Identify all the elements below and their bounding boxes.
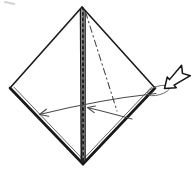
fold-arrow-short-arc	[88, 108, 133, 120]
paper-edge-lower-right-outer	[83, 88, 155, 164]
scan-artifact-mark	[5, 2, 14, 4]
origami-diagram-svg	[0, 0, 194, 171]
crease-dash-dot-line	[86, 12, 118, 111]
paper-edge-lower-left-inner-layer	[14, 87, 84, 161]
paper-edge-upper-right	[82, 7, 155, 88]
center-layered-edge-left	[81, 9, 82, 162]
origami-diagram-stage	[0, 0, 194, 171]
paper-edge-lower-left-outer	[10, 88, 83, 164]
push-hollow-arrow	[160, 65, 190, 94]
paper-edge-upper-left	[10, 7, 82, 88]
